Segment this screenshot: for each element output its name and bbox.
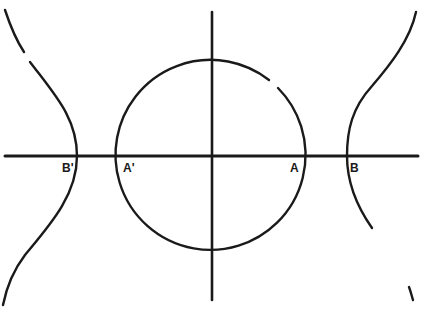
label-a-prime: A' <box>123 161 135 175</box>
label-a: A <box>290 161 299 175</box>
label-b: B <box>350 161 359 175</box>
label-b-prime: B' <box>62 161 74 175</box>
circle-hyperbola-diagram: B' A' A B <box>0 0 428 314</box>
hyperbola-left-branch-upper <box>5 10 24 52</box>
hyperbola-left-branch <box>3 62 77 305</box>
hyperbola-right-branch-tail <box>409 287 413 300</box>
hyperbola-right-branch <box>347 12 416 228</box>
